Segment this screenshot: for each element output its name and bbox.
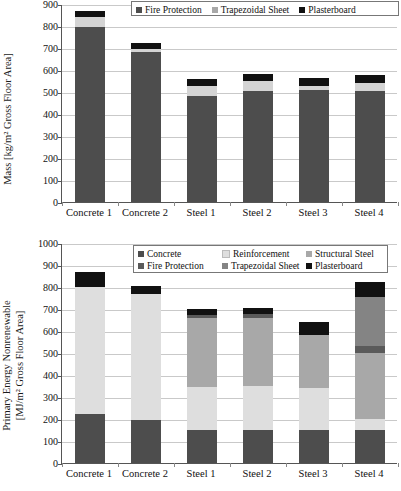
bar-concrete-2 [131, 43, 161, 202]
x-tick-mark [342, 463, 343, 467]
y-tick-mark [58, 244, 62, 245]
bar-segment-plasterboard [243, 74, 273, 81]
y-tick-mark [58, 310, 62, 311]
y-tick-mark [58, 159, 62, 160]
bar-segment-reinforcement [131, 294, 161, 419]
x-axis-label-concrete-1: Concrete 1 [66, 468, 112, 480]
bar-segment-trapezoidal-sheet [243, 81, 273, 91]
bar-segment-structural-steel [187, 318, 217, 387]
legend-swatch-trapezoidal-sheet [222, 263, 228, 269]
bar-steel-4 [355, 282, 385, 463]
x-tick-mark [342, 202, 343, 206]
bar-segment-fire-protection [299, 90, 329, 202]
y-axis-label-energy-text: Primary Energy Nonrenewable[MJ/m² Gross … [1, 300, 26, 430]
grid-line [62, 376, 397, 377]
bar-segment-trapezoidal-sheet [75, 17, 105, 27]
grid-line [62, 288, 397, 289]
x-tick-mark [230, 463, 231, 467]
legend-swatch-trapezoidal-sheet [212, 7, 218, 13]
grid-line [62, 442, 397, 443]
y-tick-label: 600 [31, 327, 61, 337]
x-tick-mark [230, 202, 231, 206]
y-tick-mark [58, 266, 62, 267]
y-tick-label: 500 [31, 349, 61, 359]
plot-area-mass [61, 5, 397, 203]
x-axis-label-concrete-2: Concrete 2 [122, 207, 168, 219]
y-tick-mark [58, 5, 62, 6]
grid-line [62, 332, 397, 333]
y-tick-label: 100 [31, 437, 61, 447]
plot-area-energy [61, 244, 397, 464]
y-tick-label: 0 [31, 198, 61, 208]
x-tick-mark [286, 463, 287, 467]
y-tick-label: 900 [31, 261, 61, 271]
legend-swatch-plasterboard [299, 7, 305, 13]
bar-steel-1 [187, 309, 217, 463]
legend-label: Reinforcement [233, 249, 289, 259]
y-tick-label: 1000 [31, 239, 61, 249]
y-tick-label: 800 [31, 283, 61, 293]
bar-segment-fire-protection [243, 91, 273, 202]
bar-segment-fire-protection [75, 27, 105, 202]
bar-steel-1 [187, 79, 217, 202]
bar-segment-concrete [355, 430, 385, 463]
legend-label: Concrete [147, 249, 181, 259]
legend-swatch-concrete [138, 251, 144, 257]
grid-line [62, 159, 397, 160]
y-tick-mark [58, 420, 62, 421]
grid-line [62, 420, 397, 421]
y-tick-mark [58, 71, 62, 72]
y-tick-mark [58, 115, 62, 116]
bar-segment-structural-steel [355, 353, 385, 419]
x-axis-label-steel-2: Steel 2 [243, 468, 272, 480]
bar-steel-2 [243, 308, 273, 463]
x-tick-mark [118, 463, 119, 467]
bar-steel-3 [299, 78, 329, 203]
bar-segment-plasterboard [187, 79, 217, 87]
bar-steel-4 [355, 75, 385, 202]
bar-segment-concrete [243, 430, 273, 463]
x-axis-label-steel-4: Steel 4 [355, 207, 384, 219]
grid-line [62, 398, 397, 399]
legend-item-plasterboard: Plasterboard [306, 261, 390, 271]
grid-line [62, 137, 397, 138]
bar-steel-3 [299, 322, 329, 463]
legend-label: Trapezoidal Sheet [221, 5, 290, 15]
y-tick-mark [58, 49, 62, 50]
bar-segment-trapezoidal-sheet [355, 297, 385, 347]
y-tick-label: 0 [31, 459, 61, 469]
grid-line [62, 354, 397, 355]
legend-item-reinforcement: Reinforcement [222, 249, 306, 259]
grid-line [62, 310, 397, 311]
y-tick-label: 300 [31, 393, 61, 403]
y-tick-mark [58, 137, 62, 138]
grid-line [62, 93, 397, 94]
y-tick-label: 400 [31, 371, 61, 381]
x-tick-mark [62, 463, 63, 467]
x-axis-label-concrete-1: Concrete 1 [66, 207, 112, 219]
legend-energy-row-2: Fire ProtectionTrapezoidal SheetPlasterb… [138, 260, 383, 272]
legend-energy-row-1: ConcreteReinforcementStructural Steel [138, 248, 383, 260]
x-tick-mark [398, 202, 399, 206]
legend-swatch-fire-protection [138, 263, 144, 269]
bar-concrete-1 [75, 272, 105, 463]
y-tick-label: 700 [31, 44, 61, 54]
bar-segment-plasterboard [131, 286, 161, 294]
bar-segment-reinforcement [355, 419, 385, 430]
x-axis-label-steel-2: Steel 2 [243, 207, 272, 219]
bar-concrete-1 [75, 11, 105, 202]
bar-segment-fire-protection [355, 346, 385, 353]
bar-segment-concrete [75, 414, 105, 464]
bar-segment-plasterboard [299, 78, 329, 87]
y-tick-mark [58, 27, 62, 28]
y-axis-ticks-energy: 01002003004005006007008009001000 [31, 244, 61, 464]
figure-stacked-bar-charts: Mass [kg/m² Gross Floor Area] 0100200300… [0, 0, 401, 491]
y-tick-label: 700 [31, 305, 61, 315]
bar-segment-concrete [131, 420, 161, 463]
bar-segment-reinforcement [75, 287, 105, 414]
y-tick-mark [58, 398, 62, 399]
bar-segment-reinforcement [187, 387, 217, 430]
y-tick-label: 300 [31, 132, 61, 142]
grid-line [62, 49, 397, 50]
legend-label: Plasterboard [315, 261, 363, 271]
